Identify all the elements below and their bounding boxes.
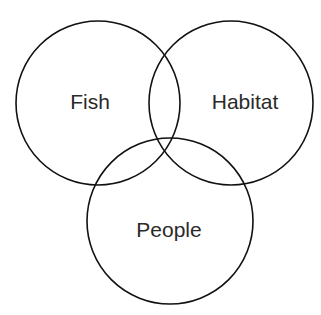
habitat-label: Habitat <box>212 90 279 113</box>
people-label: People <box>136 218 201 241</box>
fish-label: Fish <box>70 90 110 113</box>
venn-diagram: Fish Habitat People <box>0 0 321 315</box>
